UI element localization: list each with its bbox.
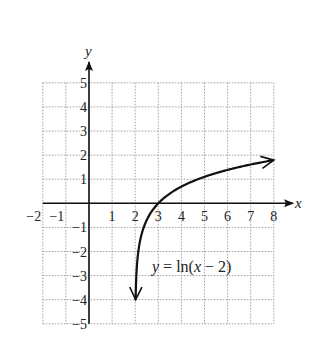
equation-label: y = ln(x − 2)	[150, 258, 231, 276]
y-tick-label: 3	[80, 124, 87, 139]
y-tick-label: 2	[80, 148, 87, 163]
y-tick-label: 4	[80, 100, 87, 115]
y-tick-label: −1	[72, 220, 87, 235]
x-tick-label: 8	[270, 209, 277, 224]
x-tick-label: 3	[155, 209, 162, 224]
x-tick-label: 1	[109, 209, 116, 224]
x-tick-label: 5	[201, 209, 208, 224]
x-tick-label: −1	[49, 209, 64, 224]
y-tick-label: −4	[72, 293, 87, 308]
x-tick-label: 4	[178, 209, 185, 224]
y-tick-label: −2	[72, 245, 87, 260]
x-tick-label: 7	[247, 209, 254, 224]
y-tick-label: 5	[80, 76, 87, 91]
y-axis-label: y	[83, 43, 92, 59]
x-tick-label: −2	[26, 209, 41, 224]
graph: −2−11234567854321−1−2−3−4−5 x y y = ln(x…	[0, 0, 319, 355]
x-tick-label: 2	[132, 209, 139, 224]
y-tick-label: 1	[80, 172, 87, 187]
curve-ln-x-minus-2	[130, 156, 274, 299]
x-axis-label: x	[294, 195, 302, 211]
y-tick-label: −3	[72, 269, 87, 284]
x-tick-label: 6	[224, 209, 231, 224]
y-tick-label: −5	[72, 317, 87, 332]
